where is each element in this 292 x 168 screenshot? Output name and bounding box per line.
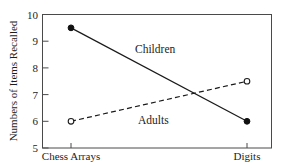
series-label-adults: Adults bbox=[138, 114, 169, 126]
series-children-point-chess-arrays bbox=[68, 25, 74, 31]
x-tick-label-digits: Digits bbox=[234, 150, 261, 162]
y-tick-label-9: 9 bbox=[33, 35, 39, 47]
y-tick-label-8: 8 bbox=[33, 62, 39, 74]
x-tick-label-chess-arrays: Chess Arrays bbox=[42, 150, 100, 162]
y-tick-label-10: 10 bbox=[27, 9, 39, 21]
series-adults-point-digits bbox=[244, 78, 250, 84]
series-children-point-digits bbox=[244, 118, 250, 124]
series-adults-point-chess-arrays bbox=[68, 119, 74, 125]
y-tick-label-6: 6 bbox=[33, 115, 39, 127]
series-label-children: Children bbox=[135, 43, 175, 55]
line-chart: 5 6 7 8 9 10 Numbers of Items Recalled C… bbox=[0, 0, 292, 168]
y-axis-title: Numbers of Items Recalled bbox=[7, 20, 19, 141]
chart-page: 5 6 7 8 9 10 Numbers of Items Recalled C… bbox=[0, 0, 292, 168]
y-tick-label-5: 5 bbox=[33, 142, 39, 154]
y-tick-label-7: 7 bbox=[33, 89, 39, 101]
